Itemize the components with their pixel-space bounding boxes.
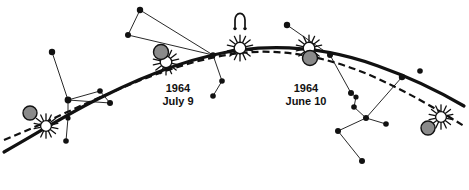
star-dot xyxy=(97,88,103,94)
eclipse-label-year: 1964 xyxy=(294,82,319,94)
star-dot xyxy=(383,121,389,127)
moon-disc xyxy=(421,121,435,135)
eclipse-label-year: 1964 xyxy=(166,82,191,94)
star-dot xyxy=(137,7,143,13)
star-dot xyxy=(219,78,225,84)
star-dot xyxy=(363,115,369,121)
eclipse-paths-diagram: 1964July 91964June 10 xyxy=(0,0,469,190)
eclipse-label-date: July 9 xyxy=(162,95,193,107)
star-dot xyxy=(335,128,341,134)
eclipse-label-date: June 10 xyxy=(286,95,327,107)
star-dot xyxy=(107,100,113,106)
star-dot xyxy=(348,90,354,96)
moon-disc xyxy=(154,45,169,60)
star-dot xyxy=(210,52,216,58)
star-dot xyxy=(284,22,290,28)
eclipse-label-eclipse-july: 1964July 9 xyxy=(162,82,193,107)
star-dot xyxy=(417,68,423,74)
moon-disc xyxy=(303,51,318,66)
star-dot xyxy=(210,93,216,99)
star-dot xyxy=(125,32,131,38)
star-dot xyxy=(353,94,358,99)
star-dot xyxy=(65,97,72,104)
moon-disc xyxy=(23,106,37,120)
star-dot xyxy=(359,158,365,164)
star-dot xyxy=(351,104,357,110)
star-dot xyxy=(49,49,55,55)
star-dot xyxy=(399,74,405,80)
star-dot xyxy=(63,138,69,144)
star-dot xyxy=(327,52,333,58)
star-dot xyxy=(65,115,70,120)
